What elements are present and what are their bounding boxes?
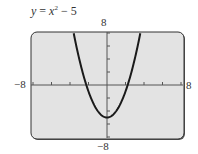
xmax-label: 8	[186, 79, 192, 91]
ymin-label: −8	[97, 140, 109, 152]
calculator-screen	[0, 0, 198, 154]
xmin-label: −8	[14, 78, 26, 90]
ymax-label: 8	[101, 16, 107, 28]
